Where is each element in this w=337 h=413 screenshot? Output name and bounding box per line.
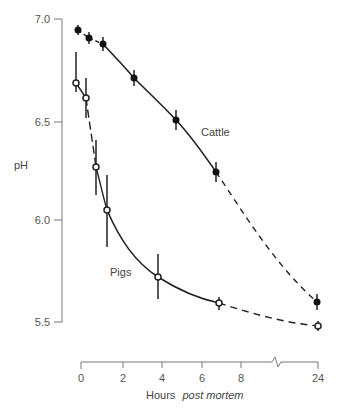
- ph-chart: 7.0 6.5 6.0 5.5 pH 0 2 4 6 8 24 Hours po…: [0, 0, 337, 413]
- pigs-point: [73, 80, 79, 86]
- x-tick-6: 6: [199, 372, 205, 384]
- y-tick-6.5: 6.5: [35, 116, 50, 128]
- cattle-markers: [75, 27, 321, 306]
- cattle-point: [86, 35, 93, 42]
- y-axis-title: pH: [14, 159, 28, 171]
- x-tick-0: 0: [78, 372, 84, 384]
- pigs-point: [216, 300, 222, 306]
- x-axis: [81, 357, 318, 369]
- cattle-point: [100, 41, 107, 48]
- x-axis-title-italic: post mortem: [181, 389, 243, 401]
- pigs-label: Pigs: [110, 266, 132, 278]
- y-tick-7.0: 7.0: [35, 13, 50, 25]
- cattle-point: [213, 169, 220, 176]
- x-axis-title: Hours post mortem: [146, 389, 244, 401]
- pigs-point: [155, 274, 161, 280]
- pigs-point: [104, 207, 110, 213]
- x-tick-2: 2: [120, 372, 126, 384]
- pigs-point: [93, 164, 99, 170]
- cattle-point: [314, 299, 321, 306]
- pigs-point: [83, 95, 89, 101]
- cattle-point: [173, 117, 180, 124]
- y-tick-5.5: 5.5: [35, 316, 50, 328]
- cattle-point: [131, 75, 138, 82]
- y-axis: [54, 19, 62, 322]
- x-tick-4: 4: [159, 372, 165, 384]
- pigs-point: [315, 323, 321, 329]
- y-tick-6.0: 6.0: [35, 214, 50, 226]
- x-tick-8: 8: [238, 372, 244, 384]
- cattle-point: [75, 27, 82, 34]
- x-axis-title-plain: Hours: [146, 389, 176, 401]
- pigs-series: [76, 52, 318, 331]
- cattle-label: Cattle: [201, 126, 230, 138]
- pigs-markers: [73, 80, 321, 329]
- x-tick-24: 24: [312, 372, 324, 384]
